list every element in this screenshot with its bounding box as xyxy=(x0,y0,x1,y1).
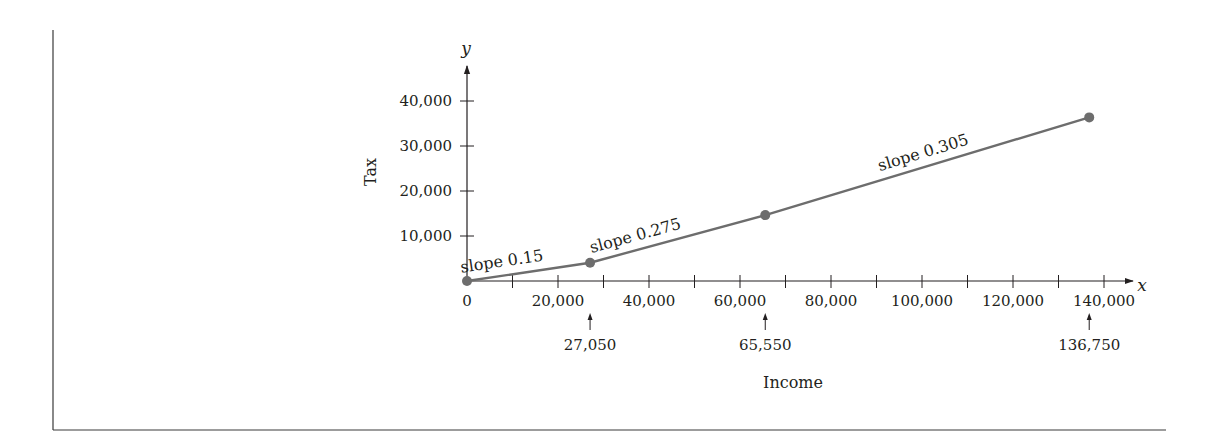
tax-line xyxy=(467,117,1089,281)
ticks: 020,00040,00060,00080,000100,000120,0001… xyxy=(400,92,1136,310)
x-axis-variable: x xyxy=(1137,275,1147,295)
x-axis-title: Income xyxy=(763,373,823,392)
data-series xyxy=(462,112,1094,286)
breakpoint-label: 136,750 xyxy=(1058,336,1120,354)
y-tick-label: 10,000 xyxy=(400,227,453,245)
axes xyxy=(467,66,1133,281)
x-tick-label: 60,000 xyxy=(714,292,767,310)
x-tick-label: 100,000 xyxy=(891,292,953,310)
x-tick-label: 0 xyxy=(462,292,472,310)
tax-chart: 020,00040,00060,00080,000100,000120,0001… xyxy=(0,0,1208,443)
y-axis-variable: y xyxy=(460,38,471,58)
x-tick-label: 140,000 xyxy=(1073,292,1135,310)
data-point xyxy=(585,258,595,268)
annotations: slope 0.15slope 0.275slope 0.30527,05065… xyxy=(459,130,1120,354)
data-point xyxy=(760,210,770,220)
x-tick-label: 20,000 xyxy=(532,292,585,310)
y-axis-title: Tax xyxy=(361,158,380,186)
breakpoint-label: 65,550 xyxy=(739,336,792,354)
breakpoint-arrow-head xyxy=(588,313,593,320)
y-tick-label: 20,000 xyxy=(400,182,453,200)
x-tick-label: 80,000 xyxy=(805,292,858,310)
data-point xyxy=(462,276,472,286)
y-tick-label: 30,000 xyxy=(400,137,453,155)
x-tick-label: 40,000 xyxy=(623,292,676,310)
x-tick-label: 120,000 xyxy=(982,292,1044,310)
y-tick-label: 40,000 xyxy=(400,92,453,110)
data-point xyxy=(1084,112,1094,122)
breakpoint-arrow-head xyxy=(763,313,768,320)
breakpoint-label: 27,050 xyxy=(564,336,617,354)
breakpoint-arrow-head xyxy=(1087,313,1092,320)
